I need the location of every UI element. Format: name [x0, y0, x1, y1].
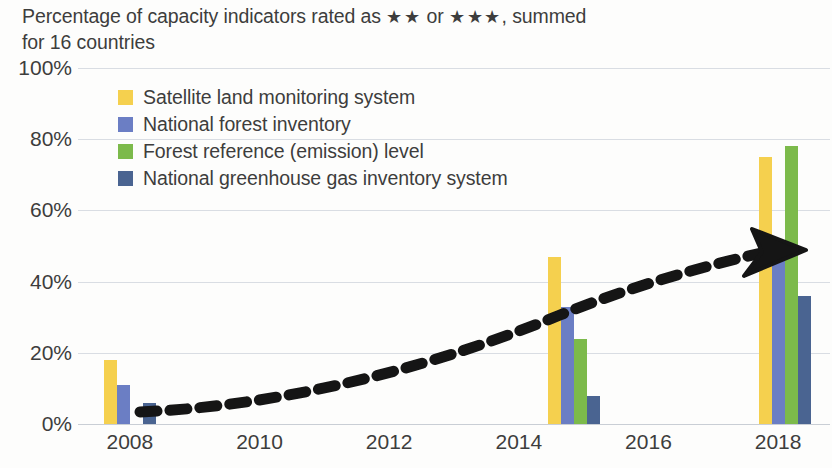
- x-axis-tick-label: 2018: [755, 430, 802, 454]
- x-axis-tick-label: 2010: [236, 430, 283, 454]
- x-axis: 200820102012201420162018: [78, 428, 830, 468]
- y-axis-tick-label: 0%: [2, 412, 72, 436]
- legend-item-label: Forest reference (emission) level: [143, 140, 424, 163]
- legend-item-label: National forest inventory: [143, 113, 351, 136]
- bar: [798, 296, 811, 424]
- y-axis-tick-label: 60%: [2, 198, 72, 222]
- y-axis-tick-label: 100%: [2, 56, 72, 80]
- bar: [143, 403, 156, 424]
- gridline: [78, 210, 830, 211]
- chart-title-part-3: , summed: [502, 5, 587, 27]
- gridline: [78, 282, 830, 283]
- y-axis-tick-label: 20%: [2, 341, 72, 365]
- chart-title-part-2: or: [421, 5, 449, 27]
- three-star-icon: ★★★: [449, 7, 502, 27]
- legend-swatch-icon: [118, 90, 133, 105]
- chart-title-part-1: Percentage of capacity indicators rated …: [22, 5, 386, 27]
- legend-item[interactable]: Satellite land monitoring system: [118, 84, 508, 110]
- legend-item-label: Satellite land monitoring system: [143, 86, 415, 109]
- legend-swatch-icon: [118, 144, 133, 159]
- legend-item[interactable]: National greenhouse gas inventory system: [118, 165, 508, 191]
- two-star-icon: ★★: [386, 7, 421, 27]
- x-axis-tick-label: 2008: [107, 430, 154, 454]
- bar: [772, 260, 785, 424]
- x-axis-tick-label: 2014: [495, 430, 542, 454]
- bar: [117, 385, 130, 424]
- legend-swatch-icon: [118, 171, 133, 186]
- x-axis-tick-label: 2012: [366, 430, 413, 454]
- chart-legend: Satellite land monitoring systemNational…: [118, 84, 508, 192]
- legend-item-label: National greenhouse gas inventory system: [143, 167, 508, 190]
- gridline: [78, 68, 830, 69]
- bar: [561, 307, 574, 424]
- gridline: [78, 353, 830, 354]
- chart-title: Percentage of capacity indicators rated …: [22, 4, 722, 55]
- bar: [587, 396, 600, 424]
- legend-item[interactable]: Forest reference (emission) level: [118, 138, 508, 164]
- x-axis-tick-label: 2016: [625, 430, 672, 454]
- chart-title-line-2: for 16 countries: [22, 31, 155, 53]
- bar: [785, 146, 798, 424]
- bar: [548, 257, 561, 424]
- y-axis-tick-label: 80%: [2, 127, 72, 151]
- legend-swatch-icon: [118, 117, 133, 132]
- gridline: [78, 424, 830, 425]
- bar: [759, 157, 772, 424]
- legend-item[interactable]: National forest inventory: [118, 111, 508, 137]
- bar: [574, 339, 587, 424]
- bar: [104, 360, 117, 424]
- y-axis-tick-label: 40%: [2, 270, 72, 294]
- y-axis: 0%20%40%60%80%100%: [0, 68, 72, 424]
- chart-container: Percentage of capacity indicators rated …: [0, 0, 832, 468]
